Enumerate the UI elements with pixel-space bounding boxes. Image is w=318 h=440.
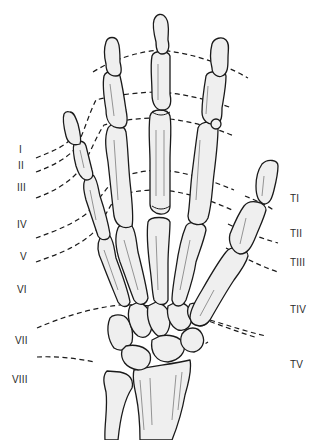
hand-skeleton-diagram [0, 0, 318, 440]
zone-label-TV: TV [290, 360, 303, 370]
distal-phalanx-3 [153, 14, 169, 54]
zone-label-III: III [17, 183, 26, 193]
zone-label-V: V [20, 252, 27, 262]
distal-phalanx-4 [105, 38, 122, 77]
zone-label-TIII: TIII [290, 258, 305, 268]
carpal-bone [122, 345, 151, 370]
proximal-phalanx-3 [149, 110, 171, 214]
middle-phalanx-2 [202, 72, 226, 125]
metacarpal-1 [190, 248, 248, 326]
zone-line-TIV [210, 320, 266, 336]
zone-label-IV: IV [17, 220, 27, 230]
zone-label-VI: VI [17, 285, 27, 295]
middle-phalanx-4 [103, 72, 127, 129]
distal-phalanx-1 [256, 160, 278, 204]
middle-finger [147, 14, 171, 304]
forearm-bones [104, 360, 191, 440]
proximal-phalanx-2 [188, 122, 218, 225]
zone-label-I: I [19, 145, 22, 155]
zone-label-TIV: TIV [290, 305, 306, 315]
zone-label-TI: TI [290, 194, 299, 204]
distal-phalanx-5 [63, 112, 81, 145]
ulna-bone [104, 371, 133, 440]
zone-label-VIII: VIII [12, 375, 28, 385]
carpal-bone [152, 335, 185, 362]
proximal-phalanx-1 [229, 202, 266, 254]
proximal-phalanx-4 [106, 125, 133, 228]
metacarpal-3 [147, 218, 170, 305]
middle-phalanx-3 [151, 52, 171, 111]
sesamoid-bone [211, 119, 221, 129]
zone-label-II: II [18, 161, 24, 171]
carpal-bone [181, 328, 204, 352]
proximal-phalanx-5 [84, 175, 110, 240]
zone-label-TII: TII [290, 229, 302, 239]
distal-phalanx-2 [211, 38, 229, 77]
zone-label-VII: VII [15, 336, 28, 346]
